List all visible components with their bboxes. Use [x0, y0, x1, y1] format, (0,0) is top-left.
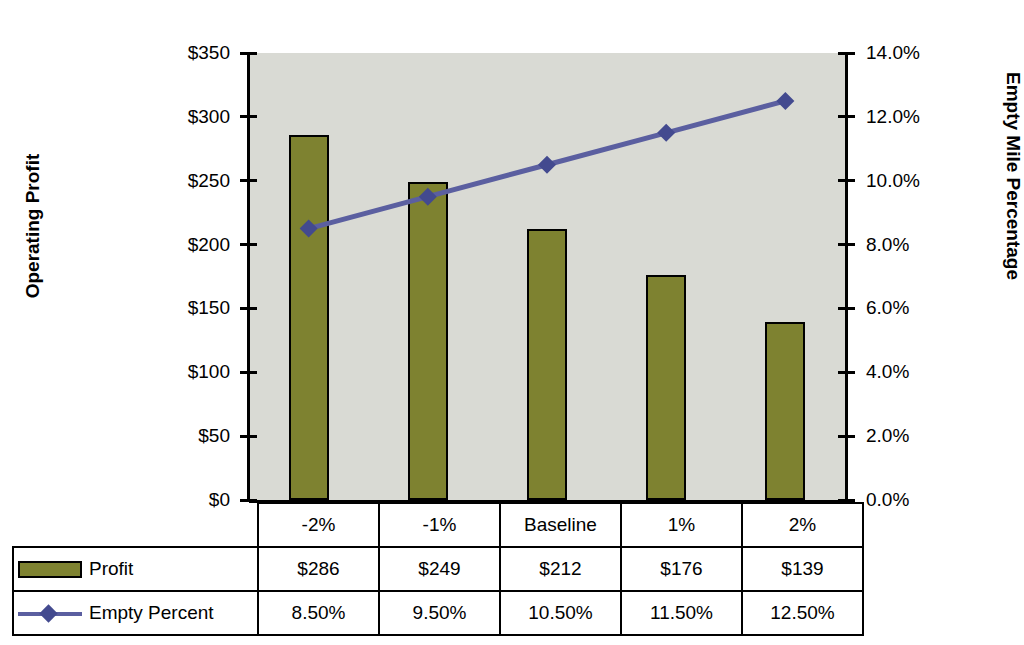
- legend-label-empty-percent: Empty Percent: [89, 602, 214, 624]
- legend-label-profit: Profit: [89, 558, 133, 580]
- y-tick-label-right: 6.0%: [866, 298, 986, 317]
- table-row-empty-percent: Empty Percent 8.50%9.50%10.50%11.50%12.5…: [13, 591, 863, 635]
- table-cell-empty-percent-2%: 12.50%: [742, 591, 863, 635]
- table-cell-empty-percent-Baseline: 10.50%: [500, 591, 621, 635]
- y-tick-right: [838, 115, 855, 118]
- table-header-Baseline: Baseline: [500, 503, 621, 547]
- table-cell-profit-1%: $176: [621, 547, 742, 591]
- y-tick-label-right: 0.0%: [866, 490, 986, 509]
- y-tick-label-right: 12.0%: [866, 107, 986, 126]
- y-tick-left: [240, 435, 257, 438]
- legend-item-empty-percent[interactable]: Empty Percent: [13, 591, 258, 635]
- bar-profit--1%: [408, 182, 448, 500]
- y-tick-label-right: 2.0%: [866, 426, 986, 445]
- bar-profit-2%: [765, 322, 805, 500]
- y-tick-right: [838, 52, 855, 55]
- table-header--2%: -2%: [258, 503, 379, 547]
- table-cell-profit-2%: $139: [742, 547, 863, 591]
- bar-profit-Baseline: [527, 229, 567, 500]
- y-tick-left: [240, 52, 257, 55]
- y-tick-label-right: 4.0%: [866, 362, 986, 381]
- y-tick-right: [838, 435, 855, 438]
- y-axis-title-left: Operating Profit: [22, 101, 44, 351]
- line-swatch-icon: [18, 605, 82, 622]
- bar-profit--2%: [289, 135, 329, 500]
- bar-profit-1%: [646, 275, 686, 500]
- y-tick-left: [240, 243, 257, 246]
- y-axis-title-right: Empty Mile Percentage: [1002, 6, 1024, 346]
- y-tick-right: [838, 371, 855, 374]
- y-tick-left: [240, 115, 257, 118]
- page-title: [0, 0, 992, 2]
- table-cell-empty-percent-1%: 11.50%: [621, 591, 742, 635]
- y-tick-label-left: $100: [90, 362, 230, 381]
- axis-line-right: [845, 53, 848, 500]
- table-row-categories: -2%-1%Baseline1%2%: [13, 503, 863, 547]
- y-tick-label-left: $150: [90, 298, 230, 317]
- table-cell-empty-percent--1%: 9.50%: [379, 591, 500, 635]
- table-cell-profit-Baseline: $212: [500, 547, 621, 591]
- y-tick-label-right: 8.0%: [866, 235, 986, 254]
- table-header-2%: 2%: [742, 503, 863, 547]
- y-tick-label-left: $250: [90, 171, 230, 190]
- y-tick-label-left: $50: [90, 426, 230, 445]
- table-row-profit: Profit $286$249$212$176$139: [13, 547, 863, 591]
- table-cell-empty-percent--2%: 8.50%: [258, 591, 379, 635]
- y-tick-left: [240, 307, 257, 310]
- table-header-1%: 1%: [621, 503, 742, 547]
- table-corner-cell: [13, 503, 258, 547]
- y-tick-label-left: $200: [90, 235, 230, 254]
- y-tick-left: [240, 371, 257, 374]
- data-table: -2%-1%Baseline1%2% Profit $286$249$212$1…: [12, 502, 864, 636]
- y-tick-label-left: $350: [90, 43, 230, 62]
- axis-line-left: [247, 53, 250, 500]
- y-tick-right: [838, 179, 855, 182]
- y-tick-label-right: 10.0%: [866, 171, 986, 190]
- y-tick-left: [240, 179, 257, 182]
- y-tick-label-right: 14.0%: [866, 43, 986, 62]
- table-header--1%: -1%: [379, 503, 500, 547]
- y-tick-label-left: $300: [90, 107, 230, 126]
- table-cell-profit--1%: $249: [379, 547, 500, 591]
- legend-item-profit[interactable]: Profit: [13, 547, 258, 591]
- y-tick-right: [838, 243, 855, 246]
- y-tick-right: [838, 307, 855, 310]
- bar-swatch-icon: [18, 561, 82, 578]
- table-cell-profit--2%: $286: [258, 547, 379, 591]
